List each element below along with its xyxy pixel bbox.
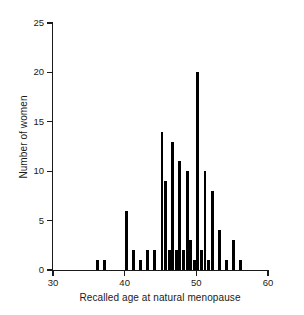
histogram-bar	[232, 240, 235, 270]
histogram-bar	[225, 260, 228, 270]
histogram-bar	[207, 260, 210, 270]
histogram-bar	[189, 240, 192, 270]
histogram-bar	[218, 230, 221, 270]
histogram-bar	[139, 260, 142, 270]
histogram-bar	[96, 260, 99, 270]
x-tick-label: 30	[38, 277, 68, 289]
histogram-bar	[186, 171, 189, 270]
x-tick-mark	[124, 271, 125, 276]
histogram-bar	[239, 260, 242, 270]
y-tick-mark	[47, 269, 52, 270]
histogram-bar	[178, 161, 181, 270]
y-tick-label-text: 25	[24, 18, 44, 28]
x-tick-mark	[196, 271, 197, 276]
histogram-bar	[153, 250, 156, 270]
x-tick-mark	[267, 271, 268, 276]
x-tick-label-text: 50	[181, 277, 211, 289]
histogram-bar	[171, 142, 174, 270]
y-tick-label: 15	[22, 117, 44, 127]
histogram-bar	[168, 250, 171, 270]
x-tick-mark	[52, 271, 53, 276]
y-tick-mark	[47, 220, 52, 221]
x-axis-label: Recalled age at natural menopause	[40, 292, 280, 303]
x-tick-label: 50	[181, 277, 211, 289]
histogram-bar	[146, 250, 149, 270]
histogram-bar	[211, 191, 214, 270]
x-tick-label-text: 40	[110, 277, 140, 289]
y-tick-label: 25	[22, 18, 44, 28]
y-tick-label: 0	[22, 265, 44, 275]
y-tick-label-text: 5	[24, 216, 44, 226]
histogram-bar	[175, 250, 178, 270]
histogram-bar	[193, 260, 196, 270]
y-tick-label: 10	[22, 166, 44, 176]
y-tick-label-text: 0	[24, 265, 44, 275]
histogram-bar	[161, 132, 164, 270]
y-tick-label-text: 15	[24, 117, 44, 127]
histogram-bar	[164, 181, 167, 270]
y-tick-mark	[47, 121, 52, 122]
histogram-bar	[200, 250, 203, 270]
x-tick-label: 40	[110, 277, 140, 289]
x-axis-line	[52, 270, 269, 271]
x-tick-label-text: 30	[38, 277, 68, 289]
histogram-bar	[182, 250, 185, 270]
histogram-bars	[53, 23, 268, 270]
y-tick-label: 20	[22, 67, 44, 77]
y-axis-label: Number of women	[14, 2, 32, 272]
histogram-bar	[132, 250, 135, 270]
histogram-figure: Number of women 0510152025 30405060 Reca…	[0, 0, 304, 315]
x-tick-label: 60	[253, 277, 283, 289]
histogram-bar	[125, 211, 128, 270]
histogram-bar	[103, 260, 106, 270]
x-tick-label-text: 60	[253, 277, 283, 289]
histogram-bar	[204, 171, 207, 270]
y-tick-label: 5	[22, 216, 44, 226]
histogram-bar	[196, 72, 199, 270]
y-tick-label-text: 20	[24, 67, 44, 77]
y-tick-mark	[47, 72, 52, 73]
y-tick-mark	[47, 171, 52, 172]
y-tick-mark	[47, 22, 52, 23]
y-tick-label-text: 10	[24, 166, 44, 176]
